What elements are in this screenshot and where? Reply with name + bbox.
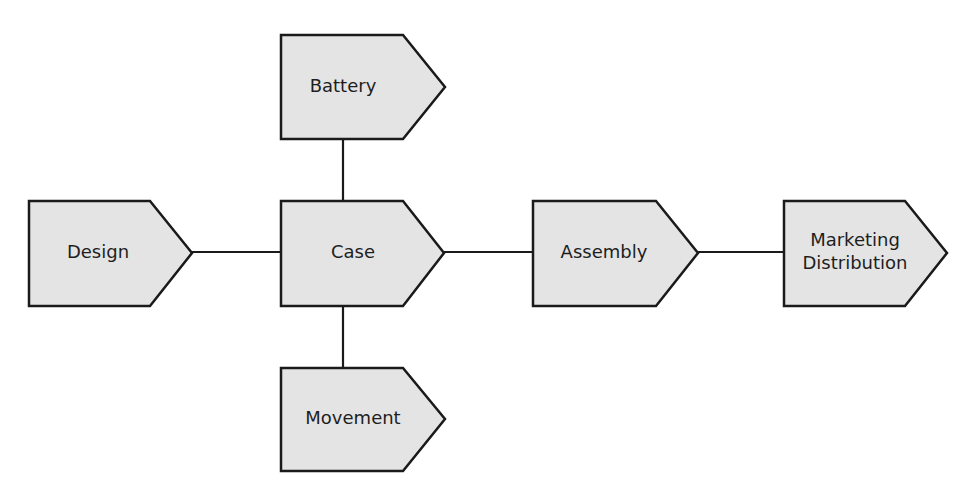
node-label: Design (67, 241, 129, 262)
node-label: Case (331, 241, 375, 262)
node-battery: Battery (281, 35, 445, 139)
node-movement: Movement (281, 368, 445, 471)
node-label-line1: Marketing (810, 229, 900, 250)
node-label-line2: Distribution (802, 252, 907, 273)
node-label: Battery (310, 75, 377, 96)
process-diagram: Battery Design Case Assembly Marketing D… (0, 0, 980, 491)
node-label: Movement (305, 407, 400, 428)
node-design: Design (29, 201, 192, 306)
node-assembly: Assembly (533, 201, 698, 306)
node-case: Case (281, 201, 444, 306)
node-label: Assembly (561, 241, 648, 262)
node-marketing-distribution: Marketing Distribution (784, 201, 947, 306)
